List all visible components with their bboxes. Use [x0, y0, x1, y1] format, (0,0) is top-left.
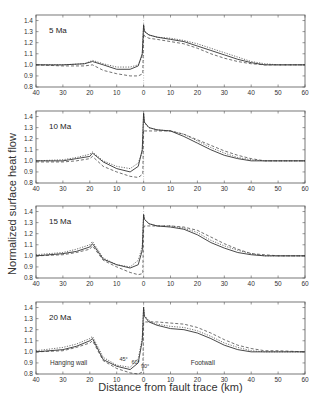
x-tick-label: 40 [32, 280, 40, 287]
y-axis-label: Normalized surface heat flow [6, 124, 18, 284]
plot-area: 0.80.91.01.11.21.31.44030201001020304050… [0, 0, 321, 407]
y-tick-label: 1.3 [24, 124, 33, 131]
footwall-label: Footwall [191, 359, 216, 366]
x-axis-label: Distance from fault trace (km) [36, 381, 305, 393]
panel-20-ma: 0.80.91.01.11.21.31.44030201001020304050… [24, 302, 309, 383]
panel-15-ma: 0.80.91.01.11.21.31.44030201001020304050… [24, 206, 309, 287]
x-tick-label: 10 [113, 280, 121, 287]
y-tick-label: 1.3 [24, 219, 33, 226]
x-tick-label: 40 [248, 89, 256, 96]
x-tick-label: 10 [167, 280, 175, 287]
x-tick-label: 60 [301, 280, 309, 287]
y-tick-label: 0.9 [24, 72, 33, 79]
y-tick-label: 0.9 [24, 359, 33, 366]
x-tick-label: 10 [167, 89, 175, 96]
x-tick-label: 60 [301, 89, 309, 96]
y-tick-label: 1.1 [24, 50, 33, 57]
x-tick-label: 30 [59, 185, 67, 192]
figure: 0.80.91.01.11.21.31.44030201001020304050… [0, 0, 321, 407]
x-tick-label: 10 [113, 89, 121, 96]
y-tick-label: 0.9 [24, 168, 33, 175]
x-tick-label: 30 [221, 185, 229, 192]
x-tick-label: 20 [194, 89, 202, 96]
dip-angle-label: 60° [131, 359, 139, 365]
y-tick-label: 1.0 [24, 252, 33, 259]
panel-label: 10 Ma [49, 122, 72, 131]
y-tick-label: 1.2 [24, 39, 33, 46]
y-tick-label: 1.4 [24, 17, 33, 24]
x-tick-label: 20 [194, 185, 202, 192]
dip-angle-label: 90° [141, 363, 149, 369]
panel-10-ma: 0.80.91.01.11.21.31.44030201001020304050… [24, 111, 309, 192]
x-tick-label: 30 [221, 89, 229, 96]
axes-frame [36, 15, 305, 87]
y-tick-label: 1.2 [24, 326, 33, 333]
x-tick-label: 40 [248, 280, 256, 287]
y-tick-label: 1.0 [24, 348, 33, 355]
x-tick-label: 0 [142, 89, 146, 96]
x-tick-label: 40 [248, 185, 256, 192]
y-tick-label: 1.1 [24, 146, 33, 153]
y-tick-label: 1.4 [24, 113, 33, 120]
y-tick-label: 1.2 [24, 135, 33, 142]
panel-label: 20 Ma [49, 313, 72, 322]
x-tick-label: 0 [142, 280, 146, 287]
panel-5-ma: 0.80.91.01.11.21.31.44030201001020304050… [24, 15, 309, 96]
x-tick-label: 0 [142, 185, 146, 192]
x-tick-label: 40 [32, 89, 40, 96]
x-tick-label: 20 [194, 280, 202, 287]
y-tick-label: 1.0 [24, 157, 33, 164]
y-tick-label: 1.3 [24, 28, 33, 35]
y-tick-label: 1.0 [24, 61, 33, 68]
panel-label: 15 Ma [49, 217, 72, 226]
x-tick-label: 20 [86, 280, 94, 287]
x-tick-label: 50 [274, 280, 282, 287]
panel-label: 5 Ma [49, 26, 67, 35]
x-tick-label: 20 [86, 89, 94, 96]
axes-frame [36, 111, 305, 183]
x-tick-label: 10 [113, 185, 121, 192]
y-tick-label: 1.2 [24, 230, 33, 237]
axes-frame [36, 206, 305, 278]
y-tick-label: 1.3 [24, 315, 33, 322]
x-tick-label: 50 [274, 185, 282, 192]
hanging-wall-label: Hanging wall [50, 359, 88, 367]
x-tick-label: 40 [32, 185, 40, 192]
x-tick-label: 20 [86, 185, 94, 192]
y-tick-label: 0.9 [24, 263, 33, 270]
x-tick-label: 30 [59, 280, 67, 287]
y-tick-label: 1.4 [24, 208, 33, 215]
y-tick-label: 1.1 [24, 337, 33, 344]
y-tick-label: 1.1 [24, 241, 33, 248]
x-tick-label: 30 [221, 280, 229, 287]
x-tick-label: 50 [274, 89, 282, 96]
x-tick-label: 10 [167, 185, 175, 192]
x-tick-label: 30 [59, 89, 67, 96]
y-tick-label: 1.4 [24, 304, 33, 311]
dip-angle-label: 45° [119, 356, 127, 362]
x-tick-label: 60 [301, 185, 309, 192]
